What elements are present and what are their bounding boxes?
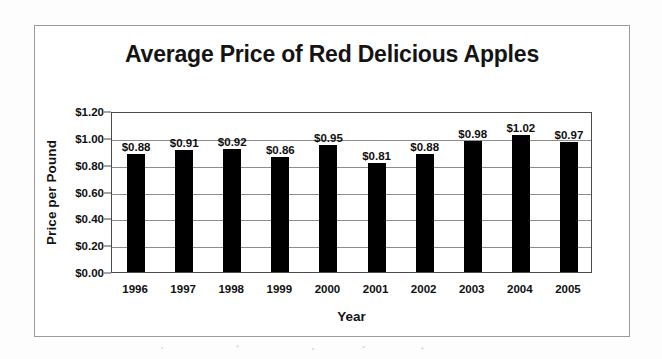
plot-area: $0.88$0.91$0.92$0.86$0.95$0.81$0.88$0.98…: [111, 112, 592, 273]
bar-value-label: $0.88: [122, 141, 151, 153]
bar-slot: $0.91: [160, 113, 208, 272]
y-axis-tick-label: $0.00: [44, 267, 104, 279]
bar: [512, 135, 530, 272]
bar-slot: $0.97: [545, 113, 593, 272]
x-axis-tick-label: 2003: [448, 283, 496, 295]
y-axis-tick-mark: [104, 246, 111, 247]
scan-artifacts: [120, 344, 540, 352]
bar: [560, 142, 578, 272]
x-axis-tick-label: 2001: [352, 283, 400, 295]
x-axis-tick-label: 1996: [111, 283, 159, 295]
bar: [464, 141, 482, 272]
x-axis-tick-label: 2002: [400, 283, 448, 295]
bar-slot: $0.92: [208, 113, 256, 272]
x-axis-tick-label: 2000: [303, 283, 351, 295]
y-axis-tick-label: $1.00: [44, 133, 104, 145]
bar: [223, 149, 241, 272]
bar-value-label: $1.02: [506, 122, 535, 134]
chart-title: Average Price of Red Delicious Apples: [34, 40, 630, 68]
y-axis-tick-mark: [104, 165, 111, 166]
bar-slot: $0.95: [304, 113, 352, 272]
bar: [175, 150, 193, 272]
bar-value-label: $0.81: [362, 150, 391, 162]
bar: [271, 157, 289, 272]
bar-value-label: $0.88: [410, 141, 439, 153]
bar-slot: $0.88: [112, 113, 160, 272]
x-axis-tick-label: 1999: [255, 283, 303, 295]
bar-value-label: $0.92: [218, 136, 247, 148]
y-axis-tick-mark: [104, 112, 111, 113]
x-axis-tick-label: 2004: [496, 283, 544, 295]
bar: [416, 154, 434, 272]
bar-value-label: $0.86: [266, 144, 295, 156]
bar-slot: $0.86: [256, 113, 304, 272]
bar-value-label: $0.98: [458, 128, 487, 140]
bar-value-label: $0.97: [555, 129, 584, 141]
y-axis-tick-label: $0.80: [44, 160, 104, 172]
bar: [127, 154, 145, 272]
bar: [368, 163, 386, 272]
bar-slot: $1.02: [497, 113, 545, 272]
y-axis-tick-label: $1.20: [44, 106, 104, 118]
bar-slot: $0.98: [449, 113, 497, 272]
y-axis-tick-label: $0.60: [44, 187, 104, 199]
bar-slot: $0.88: [401, 113, 449, 272]
bar-value-label: $0.91: [170, 137, 199, 149]
bar: [319, 145, 337, 272]
bar-slot: $0.81: [353, 113, 401, 272]
y-axis-tick-mark: [104, 219, 111, 220]
x-axis-tick-label: 2005: [544, 283, 592, 295]
y-axis-tick-label: $0.20: [44, 240, 104, 252]
x-axis-title: Year: [111, 309, 592, 324]
x-axis-tick-label: 1997: [159, 283, 207, 295]
y-axis-tick-mark: [104, 192, 111, 193]
scanned-page: Average Price of Red Delicious Apples Pr…: [0, 0, 662, 359]
y-axis-tick-mark: [104, 273, 111, 274]
y-axis-tick-label: $0.40: [44, 213, 104, 225]
y-axis-tick-mark: [104, 138, 111, 139]
x-axis-tick-label: 1998: [207, 283, 255, 295]
bar-value-label: $0.95: [314, 132, 343, 144]
